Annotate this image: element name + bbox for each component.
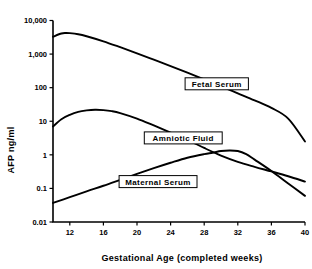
x-tick-label-0: 12 <box>66 228 74 237</box>
y-tick-label-2: 100 <box>34 83 47 92</box>
x-tick-label-5: 32 <box>234 228 242 237</box>
series-annotation-labels: Fetal SerumAmniotic FluidMaternal Serum <box>119 78 248 188</box>
x-tick-label-1: 16 <box>99 228 107 237</box>
y-tick-label-0: 10,000 <box>24 16 47 25</box>
x-tick-label-2: 20 <box>133 228 141 237</box>
y-tick-label-6: 0.01 <box>32 218 47 227</box>
series-curve-fetal-serum <box>53 33 305 142</box>
x-axis-title: Gestational Age (completed weeks) <box>101 253 262 263</box>
y-tick-label-1: 1,000 <box>28 50 47 59</box>
y-tick-label-4: 1 <box>43 151 47 160</box>
chart-container: 10,0001,0001001010.10.01 121620242832364… <box>0 0 312 269</box>
y-tick-label-3: 10 <box>39 117 47 126</box>
annotation-maternal-serum: Maternal Serum <box>119 176 197 188</box>
y-tick-label-5: 0.1 <box>37 184 47 193</box>
annotation-text: Amniotic Fluid <box>153 134 214 143</box>
series-curve-amniotic-fluid <box>53 110 305 182</box>
x-tick-label-6: 36 <box>267 228 275 237</box>
y-axis-title: AFP ng/ml <box>6 126 16 173</box>
annotation-amniotic-fluid: Amniotic Fluid <box>144 132 222 144</box>
afp-gestational-age-chart: 10,0001,0001001010.10.01 121620242832364… <box>0 0 312 269</box>
annotation-text: Maternal Serum <box>125 178 191 187</box>
y-axis-tick-labels: 10,0001,0001001010.10.01 <box>24 16 47 227</box>
x-tick-label-7: 40 <box>301 228 309 237</box>
annotation-fetal-serum: Fetal Serum <box>185 78 248 90</box>
chart-axes <box>53 21 305 223</box>
annotation-text: Fetal Serum <box>192 80 242 89</box>
x-tick-label-4: 28 <box>200 228 208 237</box>
x-axis-tick-labels: 1216202428323640 <box>66 228 310 237</box>
x-tick-label-3: 24 <box>166 228 175 237</box>
